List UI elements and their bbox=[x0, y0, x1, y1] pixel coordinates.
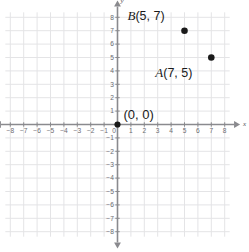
y-tick-label-7: 7 bbox=[110, 27, 114, 34]
x-tick-label--1: −1 bbox=[100, 127, 108, 134]
point-label-b: B(5, 7) bbox=[128, 9, 165, 23]
point-a-coordinates: (7, 5) bbox=[163, 66, 192, 80]
y-tick-label-1: 1 bbox=[110, 107, 114, 114]
x-tick-label-3: 3 bbox=[156, 127, 160, 134]
y-axis-label: y bbox=[121, 0, 124, 5]
x-tick-label--7: −7 bbox=[20, 127, 28, 134]
origin-label: (0, 0) bbox=[124, 108, 154, 121]
x-axis-arrow-right bbox=[234, 121, 240, 128]
y-tick-label--2: −2 bbox=[106, 148, 114, 155]
y-tick-label-5: 5 bbox=[110, 54, 114, 61]
x-tick-label-2: 2 bbox=[142, 127, 146, 134]
y-axis-arrow-down bbox=[114, 242, 121, 248]
y-tick-label--4: −4 bbox=[106, 174, 114, 181]
x-axis-arrow-left bbox=[0, 121, 1, 128]
coordinate-plane: −8−7−6−5−4−3−2−101234567887654321−1−2−3−… bbox=[0, 0, 249, 252]
x-tick-label-7: 7 bbox=[209, 127, 213, 134]
x-tick-label--2: −2 bbox=[87, 127, 95, 134]
x-tick-label-1: 1 bbox=[129, 127, 133, 134]
x-tick-label--8: −8 bbox=[7, 127, 15, 134]
y-tick-label--6: −6 bbox=[106, 201, 114, 208]
y-tick-label--8: −8 bbox=[106, 228, 114, 235]
x-tick-label-0: 0 bbox=[112, 127, 116, 134]
data-point-B bbox=[181, 27, 188, 34]
x-tick-label--4: −4 bbox=[60, 127, 68, 134]
y-tick-label--7: −7 bbox=[106, 215, 114, 222]
x-tick-label--3: −3 bbox=[74, 127, 82, 134]
point-b-coordinates: (5, 7) bbox=[135, 9, 164, 23]
y-tick-label-3: 3 bbox=[110, 81, 114, 88]
y-tick-label-4: 4 bbox=[110, 67, 114, 74]
y-tick-label-6: 6 bbox=[110, 40, 114, 47]
y-tick-label--1: −1 bbox=[106, 134, 114, 141]
y-tick-label--5: −5 bbox=[106, 188, 114, 195]
x-tick-label-8: 8 bbox=[223, 127, 227, 134]
x-tick-label-5: 5 bbox=[183, 127, 187, 134]
point-label-a: A(7, 5) bbox=[155, 66, 192, 80]
x-tick-label-4: 4 bbox=[169, 127, 173, 134]
x-tick-label-6: 6 bbox=[196, 127, 200, 134]
y-tick-label--3: −3 bbox=[106, 161, 114, 168]
x-tick-label--6: −6 bbox=[33, 127, 41, 134]
y-tick-label-8: 8 bbox=[110, 14, 114, 21]
x-axis-label: x bbox=[243, 121, 246, 128]
coordinate-grid-svg: −8−7−6−5−4−3−2−101234567887654321−1−2−3−… bbox=[0, 0, 249, 252]
data-point-origin bbox=[114, 121, 120, 127]
x-tick-label--5: −5 bbox=[47, 127, 55, 134]
data-point-A bbox=[208, 54, 215, 61]
y-tick-label-2: 2 bbox=[110, 94, 114, 101]
